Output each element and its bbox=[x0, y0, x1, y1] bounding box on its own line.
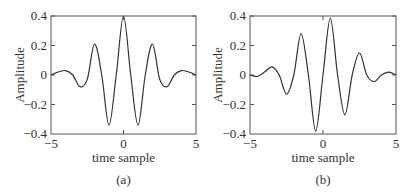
waveform-line-b bbox=[250, 18, 396, 131]
xtick-a-neg5: −5 bbox=[44, 136, 58, 151]
xtick-b-5: 5 bbox=[393, 136, 400, 151]
xlabel-b: time sample bbox=[291, 150, 354, 165]
panel-b: 0.4 0.2 0 −0.2 −0.4 −5 0 5 time sample A… bbox=[210, 8, 399, 187]
xtick-b-0: 0 bbox=[320, 136, 327, 151]
waveform-line-a bbox=[51, 16, 196, 125]
xtick-a-5: 5 bbox=[193, 136, 200, 151]
ytick-b-0.4: 0.4 bbox=[230, 8, 247, 23]
ytick-a-0: 0 bbox=[41, 67, 48, 82]
panel-a: 0.4 0.2 0 −0.2 −0.4 −5 0 5 time sample A… bbox=[12, 8, 199, 187]
ytick-b-0: 0 bbox=[240, 67, 247, 82]
figure: 0.4 0.2 0 −0.2 −0.4 −5 0 5 time sample A… bbox=[0, 0, 410, 192]
xlabel-a: time sample bbox=[92, 150, 155, 165]
xtick-a-0: 0 bbox=[120, 136, 127, 151]
ytick-a-0.2: 0.2 bbox=[31, 38, 47, 53]
ytick-a-0.4: 0.4 bbox=[31, 8, 48, 23]
ylabel-a: Amplitude bbox=[12, 47, 27, 103]
xtick-b-neg5: −5 bbox=[243, 136, 257, 151]
caption-a: (a) bbox=[116, 172, 130, 187]
ylabel-b: Amplitude bbox=[210, 47, 225, 103]
ytick-b-0.2: 0.2 bbox=[230, 38, 246, 53]
ytick-b-neg0.2: −0.2 bbox=[222, 97, 246, 112]
caption-b: (b) bbox=[315, 172, 330, 187]
